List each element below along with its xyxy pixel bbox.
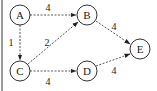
edge-a-b-weight: 4 <box>46 2 51 13</box>
node-e-label: E <box>137 43 144 55</box>
edge-b-e-weight: 4 <box>112 21 117 32</box>
node-d-label: D <box>83 65 91 77</box>
node-b-label: B <box>83 9 90 21</box>
node-c: C <box>10 61 30 81</box>
node-c-label: C <box>16 65 23 77</box>
node-e: E <box>130 39 150 59</box>
graph-diagram: 4 1 2 4 4 4 A B C D E <box>0 0 157 91</box>
edge-c-b-weight: 2 <box>45 37 50 48</box>
node-a-label: A <box>16 9 24 21</box>
edge-d-e-weight: 4 <box>112 65 117 76</box>
node-b: B <box>77 5 97 25</box>
node-d: D <box>77 61 97 81</box>
edge-c-d-weight: 4 <box>46 76 51 87</box>
node-a: A <box>10 5 30 25</box>
edge-a-c-weight: 1 <box>9 37 14 48</box>
edge-c-b <box>28 22 78 64</box>
